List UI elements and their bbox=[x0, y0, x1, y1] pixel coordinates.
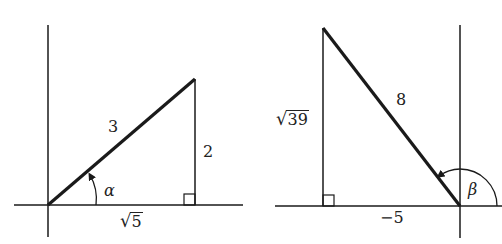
right-vertical-leg-label: √39 bbox=[276, 110, 309, 128]
left-right-angle-mark bbox=[184, 194, 195, 205]
left-figure bbox=[14, 25, 243, 237]
right-figure bbox=[275, 25, 502, 238]
right-angle-label: β bbox=[468, 182, 477, 198]
right-hypotenuse-label: 8 bbox=[396, 92, 406, 108]
left-vertical-leg-label: 2 bbox=[203, 144, 213, 160]
left-hypotenuse bbox=[48, 79, 195, 205]
right-hypotenuse bbox=[323, 28, 460, 206]
left-angle-label: α bbox=[104, 183, 115, 199]
right-horizontal-leg-label: −5 bbox=[380, 210, 404, 226]
radicand: 5 bbox=[130, 212, 142, 230]
left-horizontal-leg-label: √5 bbox=[120, 212, 143, 230]
left-angle-arc bbox=[90, 175, 96, 205]
left-hypotenuse-label: 3 bbox=[108, 119, 118, 135]
radicand: 39 bbox=[286, 110, 308, 128]
diagram-canvas bbox=[0, 0, 502, 244]
right-right-angle-mark bbox=[323, 195, 334, 206]
